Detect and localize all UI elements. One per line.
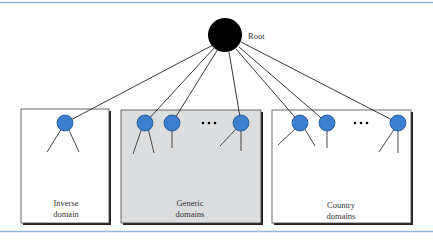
generic-node-n xyxy=(233,115,249,131)
country-label-2: domains xyxy=(327,211,356,221)
inverse-label-2: domain xyxy=(53,209,79,219)
inverse-node xyxy=(57,115,73,131)
country-label-1: Country xyxy=(327,200,356,210)
root-label: Root xyxy=(248,31,265,41)
generic-node-2 xyxy=(164,115,180,131)
generic-label-2: domains xyxy=(176,209,205,219)
country-node-n xyxy=(390,115,406,131)
generic-label-1: Generic xyxy=(177,198,204,208)
country-node-1 xyxy=(292,115,308,131)
dns-domain-diagram: Root Inverse domain Generic domains Coun… xyxy=(0,0,433,243)
generic-node-1 xyxy=(137,115,153,131)
root-node xyxy=(208,18,242,52)
country-node-2 xyxy=(319,115,335,131)
inverse-label-1: Inverse xyxy=(53,198,78,208)
